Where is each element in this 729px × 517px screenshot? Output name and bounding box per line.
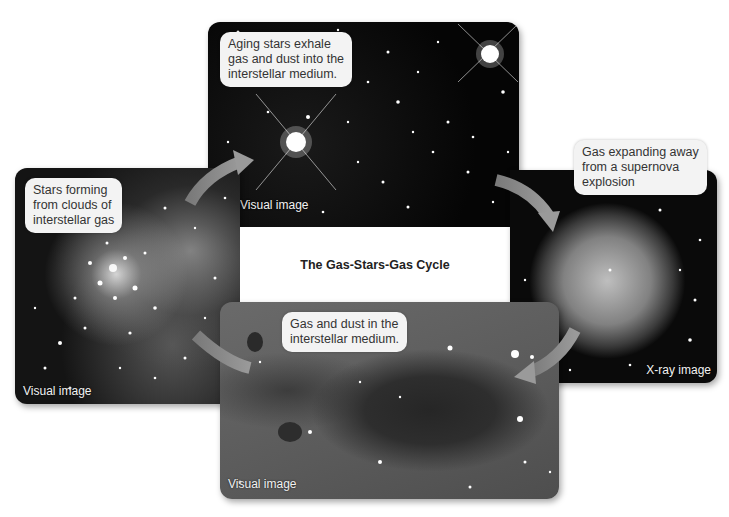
panel-aging-stars: Aging stars exhale gas and dust into the… (208, 22, 519, 227)
callout-line: interstellar medium. (228, 67, 344, 82)
panel-interstellar-medium: Gas and dust in the interstellar medium.… (220, 302, 559, 499)
callout-aging-stars: Aging stars exhale gas and dust into the… (220, 32, 352, 87)
panel-star-formation: Stars forming from clouds of interstella… (15, 168, 240, 404)
callout-line: Gas expanding away (582, 145, 699, 160)
callout-line: from a supernova (582, 160, 699, 175)
diagram-title: The Gas-Stars-Gas Cycle (300, 258, 449, 272)
callout-supernova: Gas expanding away from a supernova expl… (574, 140, 707, 195)
callout-line: Aging stars exhale (228, 37, 344, 52)
callout-line: interstellar gas (33, 213, 114, 228)
callout-line: from clouds of (33, 198, 114, 213)
callout-line: Gas and dust in the (290, 317, 399, 332)
callout-line: explosion (582, 175, 699, 190)
image-type-label: Visual image (23, 384, 91, 398)
callout-line: interstellar medium. (290, 332, 399, 347)
diagram-title-box: The Gas-Stars-Gas Cycle (240, 227, 510, 302)
callout-interstellar-medium: Gas and dust in the interstellar medium. (282, 312, 407, 352)
callout-star-formation: Stars forming from clouds of interstella… (25, 178, 122, 233)
image-type-label: Visual image (228, 477, 296, 491)
callout-line: gas and dust into the (228, 52, 344, 67)
image-type-label: X-ray image (646, 363, 711, 377)
callout-line: Stars forming (33, 183, 114, 198)
image-type-label: Visual image (240, 198, 308, 212)
